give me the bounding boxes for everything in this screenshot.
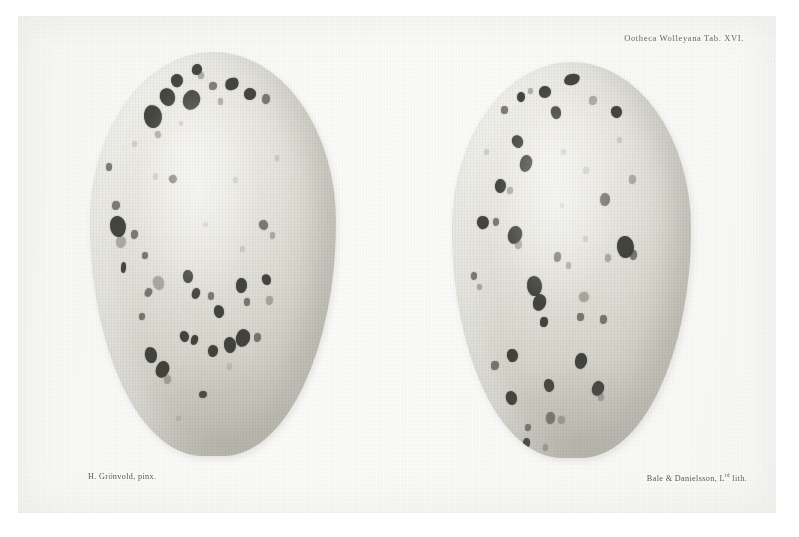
- egg-left-spot: [112, 201, 119, 210]
- egg-left-spot: [181, 88, 203, 112]
- egg-right-spot: [515, 240, 522, 249]
- egg-right-spot: [477, 284, 482, 290]
- egg-left-spot: [144, 287, 154, 298]
- egg-right-spot: [471, 272, 477, 280]
- egg-left-spot: [224, 76, 241, 92]
- egg-left-spot: [199, 391, 208, 399]
- egg-left-spot: [142, 103, 164, 129]
- printer-credit-caption: Bale & Danielsson, Ltd lith.: [647, 472, 747, 483]
- egg-left-spot: [240, 246, 245, 252]
- egg-right-spot: [549, 104, 562, 119]
- egg-left: [90, 52, 336, 456]
- egg-left-spot: [260, 273, 274, 287]
- egg-right-spot: [484, 149, 489, 155]
- egg-left-spot: [227, 363, 232, 370]
- egg-left-spot: [153, 173, 158, 179]
- egg-left-spot: [132, 141, 137, 147]
- egg-right: [452, 62, 691, 458]
- egg-left-spot: [254, 333, 261, 343]
- egg-left-spot: [257, 218, 270, 231]
- egg-right-spot: [507, 187, 513, 194]
- egg-left-spot: [167, 174, 178, 185]
- egg-left-spot: [142, 252, 148, 259]
- egg-left-spot: [208, 292, 214, 300]
- egg-right-spot: [598, 393, 604, 401]
- egg-right-spot: [501, 106, 508, 115]
- egg-left-spot: [183, 270, 195, 284]
- egg-right-spot: [509, 133, 525, 149]
- egg-left-spot: [270, 232, 275, 239]
- egg-left-spot: [106, 163, 112, 171]
- egg-right-spot: [476, 215, 491, 231]
- egg-right-spot: [517, 92, 525, 102]
- egg-left-spot: [213, 303, 226, 318]
- egg-left-spot: [190, 334, 199, 345]
- egg-left-spot: [191, 287, 202, 299]
- egg-right-spot: [525, 424, 531, 431]
- egg-right-spot: [506, 348, 519, 363]
- egg-left-spot: [131, 230, 138, 240]
- egg-left-spot: [157, 86, 178, 109]
- egg-left-spot: [198, 72, 203, 78]
- egg-right-spot: [543, 444, 548, 451]
- egg-left-spot: [218, 98, 223, 104]
- egg-right-spot: [629, 175, 636, 184]
- egg-right-spot: [558, 416, 564, 424]
- egg-left-spot: [139, 313, 145, 320]
- egg-right-spot: [600, 193, 610, 206]
- egg-right-spot: [609, 104, 624, 119]
- egg-left-spot: [235, 327, 252, 347]
- egg-right-spot: [528, 88, 533, 94]
- egg-right-spot: [493, 218, 499, 226]
- egg-left-spot: [266, 296, 273, 305]
- egg-right-spot: [574, 352, 588, 369]
- egg-left-spot: [244, 298, 250, 305]
- egg-right-spot: [543, 378, 555, 393]
- egg-right-spot: [566, 262, 572, 269]
- egg-right-spot: [554, 252, 561, 262]
- egg-right-spot: [577, 313, 583, 321]
- egg-left-spot: [275, 155, 280, 161]
- egg-right-spot: [519, 154, 534, 173]
- egg-left-spot: [203, 222, 207, 228]
- egg-left-spot: [151, 275, 166, 292]
- egg-left-spot: [116, 236, 126, 248]
- artist-credit-caption: H. Grönvold, pinx.: [88, 472, 156, 481]
- egg-right-spot: [583, 236, 587, 242]
- egg-right-spot: [561, 149, 566, 155]
- egg-right-shell: [452, 62, 691, 458]
- egg-left-spot: [209, 82, 216, 90]
- egg-right-spot: [540, 317, 547, 327]
- egg-left-spot: [154, 130, 162, 139]
- egg-right-spot: [600, 315, 607, 324]
- egg-left-spot: [208, 345, 218, 357]
- egg-left-spot: [262, 94, 270, 104]
- egg-right-spot: [495, 179, 506, 193]
- egg-left-spot: [178, 330, 190, 343]
- printer-credit-main: Bale & Danielsson, L: [647, 474, 725, 483]
- egg-right-spot: [523, 438, 530, 448]
- egg-left-spot: [164, 375, 171, 384]
- egg-right-spot: [546, 412, 555, 423]
- egg-right-spot: [605, 254, 611, 262]
- plate-title-caption: Ootheca Wolleyana Tab. XVI.: [624, 33, 744, 43]
- egg-left-spot: [169, 73, 185, 89]
- egg-right-spot: [491, 361, 498, 371]
- egg-left-spot: [236, 278, 247, 293]
- egg-right-spot: [563, 72, 580, 86]
- egg-right-spot: [538, 84, 553, 99]
- egg-right-spot: [583, 167, 588, 174]
- egg-right-spot: [589, 96, 597, 106]
- egg-right-spot: [577, 290, 589, 303]
- egg-left-spot: [233, 177, 238, 183]
- egg-left-spot: [176, 416, 181, 422]
- lithographic-plate: Ootheca Wolleyana Tab. XVI. H. Grönvold,…: [0, 0, 799, 537]
- egg-right-spot: [560, 203, 564, 209]
- egg-right-spot: [504, 389, 519, 406]
- egg-left-spot: [121, 262, 126, 273]
- egg-right-spot: [617, 137, 622, 143]
- egg-left-spot: [243, 88, 257, 102]
- egg-left-spot: [179, 121, 184, 127]
- egg-left-shell: [90, 52, 336, 456]
- egg-right-spot: [630, 250, 637, 260]
